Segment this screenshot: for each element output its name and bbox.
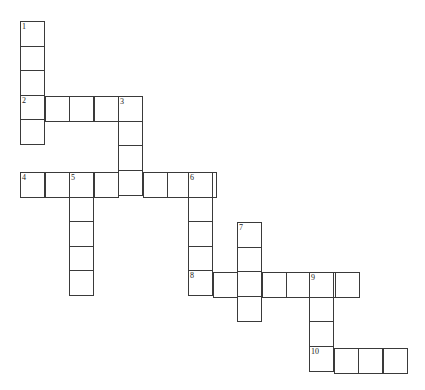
crossword-cell[interactable] xyxy=(143,172,168,198)
clue-number: 5 xyxy=(71,173,75,182)
crossword-cell[interactable] xyxy=(237,296,262,322)
crossword-cell[interactable]: 7 xyxy=(237,222,262,248)
crossword-cell[interactable] xyxy=(188,246,213,272)
crossword-cell[interactable] xyxy=(20,46,45,72)
crossword-cell[interactable] xyxy=(118,170,143,196)
crossword-cell[interactable] xyxy=(286,272,311,298)
crossword-cell[interactable] xyxy=(188,221,213,247)
crossword-cell[interactable] xyxy=(69,246,94,272)
clue-number: 4 xyxy=(22,173,26,182)
crossword-cell[interactable] xyxy=(118,145,143,171)
crossword-cell[interactable]: 5 xyxy=(69,172,94,198)
crossword-cell[interactable]: 10 xyxy=(309,346,334,372)
crossword-cell[interactable] xyxy=(262,272,287,298)
crossword-cell[interactable] xyxy=(94,172,119,198)
crossword-cell[interactable] xyxy=(45,96,70,122)
crossword-cell[interactable] xyxy=(69,221,94,247)
crossword-cell[interactable] xyxy=(335,272,360,298)
crossword-cell[interactable] xyxy=(309,321,334,347)
crossword-cell[interactable] xyxy=(309,297,334,323)
crossword-cell[interactable]: 2 xyxy=(20,95,45,121)
crossword-cell[interactable] xyxy=(334,348,359,374)
clue-number: 1 xyxy=(22,22,26,31)
crossword-cell[interactable]: 8 xyxy=(188,270,213,296)
clue-number: 10 xyxy=(311,347,319,356)
crossword-cell[interactable]: 1 xyxy=(20,21,45,47)
clue-number: 6 xyxy=(190,173,194,182)
clue-number: 8 xyxy=(190,271,194,280)
crossword-cell[interactable]: 4 xyxy=(20,172,45,198)
crossword-cell[interactable] xyxy=(69,270,94,296)
crossword-cell[interactable] xyxy=(69,96,94,122)
crossword-cell[interactable] xyxy=(20,119,45,145)
crossword-cell[interactable] xyxy=(213,272,238,298)
clue-number: 7 xyxy=(239,223,243,232)
clue-number: 9 xyxy=(311,273,315,282)
crossword-cell[interactable] xyxy=(118,121,143,147)
crossword-cell[interactable]: 3 xyxy=(118,96,143,122)
crossword-cell[interactable] xyxy=(69,197,94,223)
clue-number: 2 xyxy=(22,96,26,105)
crossword-cell[interactable] xyxy=(94,96,119,122)
clue-number: 3 xyxy=(120,97,124,106)
crossword-cell[interactable] xyxy=(358,348,383,374)
crossword-cell[interactable] xyxy=(45,172,70,198)
crossword-grid: 12345687910 xyxy=(0,0,425,390)
crossword-cell[interactable]: 9 xyxy=(309,272,334,298)
crossword-cell[interactable] xyxy=(237,247,262,273)
crossword-cell[interactable] xyxy=(237,271,262,297)
crossword-cell[interactable] xyxy=(188,197,213,223)
crossword-cell[interactable] xyxy=(20,70,45,96)
crossword-cell[interactable] xyxy=(383,348,408,374)
crossword-cell[interactable]: 6 xyxy=(188,172,213,198)
